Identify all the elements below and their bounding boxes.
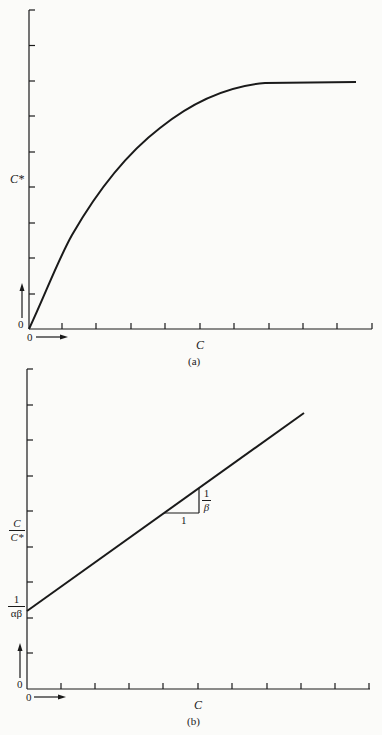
- panel-b-y-label: C C*: [9, 518, 25, 543]
- arrowhead-icon: [58, 695, 66, 700]
- panel-a-y-label: C*: [10, 173, 24, 185]
- panel-b-slope-rise: 1 β: [202, 488, 211, 513]
- panel-b-line: [27, 413, 304, 611]
- panel-b-slope-run: 1: [181, 515, 187, 526]
- panel-b-x-zero: 0: [26, 692, 32, 703]
- panel-a-caption: (a): [188, 356, 200, 367]
- panel-b-caption: (b): [187, 716, 200, 727]
- panel-b-intercept-label: 1 αβ: [8, 594, 25, 619]
- arrowhead-icon: [60, 335, 68, 340]
- panel-a-curve: [29, 82, 356, 329]
- panel-b-x-label: C: [194, 699, 202, 711]
- figure-canvas: [0, 0, 382, 735]
- panel-a-y-zero: 0: [18, 319, 24, 330]
- panel-a-x-label: C: [196, 339, 204, 351]
- panel-b-intercept-den: αβ: [8, 607, 25, 619]
- panel-b-y-zero: 0: [17, 679, 23, 690]
- panel-a-x-zero: 0: [27, 332, 33, 343]
- panel-b-slope-rise-num: 1: [202, 488, 211, 501]
- panel-b-y-label-den: C*: [9, 531, 25, 543]
- panel-b-y-label-num: C: [9, 518, 25, 531]
- arrowhead-icon: [20, 283, 25, 291]
- panel-b-intercept-num: 1: [8, 594, 25, 607]
- panel-b-axes: [27, 369, 370, 689]
- arrowhead-icon: [18, 643, 23, 651]
- panel-a-axes: [29, 10, 372, 329]
- panel-b-slope-rise-den: β: [202, 501, 211, 513]
